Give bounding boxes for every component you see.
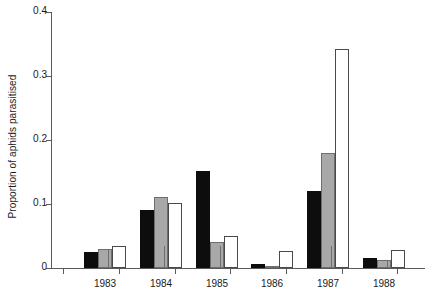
x-tick-mark-1985 <box>175 269 176 274</box>
x-tick-mark-1983 <box>63 269 64 274</box>
bar-1988-gray <box>377 260 391 268</box>
y-axis-label: Proportion of aphids parasitised <box>6 0 20 293</box>
bar-1986-white <box>279 251 293 268</box>
x-tick-mark-1988 <box>342 269 343 274</box>
x-tick-mark-1986 <box>230 269 231 274</box>
bar-1985-black <box>196 171 210 268</box>
x-tick-label-1983: 1983 <box>77 278 133 289</box>
y-tick-label: 0 <box>41 261 47 272</box>
y-tick-4: 0.4 <box>51 12 52 13</box>
x-tick-label-1985: 1985 <box>189 278 245 289</box>
bar-1987-white <box>335 49 349 268</box>
bar-texture-line <box>164 246 165 268</box>
bar-1986-black <box>251 264 265 268</box>
y-tick-0: 0 <box>51 268 52 269</box>
bar-1984-black <box>140 210 154 268</box>
bar-texture-line <box>220 246 221 268</box>
y-tick-3: 0.3 <box>51 76 52 77</box>
bar-texture-line <box>275 267 276 268</box>
bar-1984-gray <box>154 197 168 268</box>
bar-1985-gray <box>210 242 224 268</box>
bar-texture-line <box>387 260 388 268</box>
x-tick-label-1984: 1984 <box>133 278 189 289</box>
x-tick-label-1987: 1987 <box>300 278 356 289</box>
bar-1987-black <box>307 191 321 268</box>
x-tick-mark-1987 <box>286 269 287 274</box>
x-tick-mark-1984 <box>119 269 120 274</box>
bar-1986-gray <box>265 266 279 268</box>
y-tick-2: 0.2 <box>51 140 52 141</box>
y-tick-label: 0.2 <box>33 133 47 144</box>
y-tick-label: 0.3 <box>33 69 47 80</box>
x-tick-label-1988: 1988 <box>356 278 412 289</box>
x-tick-mark-end <box>397 269 398 274</box>
y-tick-label: 0.4 <box>33 5 47 16</box>
bar-1983-gray <box>98 249 112 268</box>
bar-1988-white <box>391 250 405 268</box>
y-tick-label: 0.1 <box>33 197 47 208</box>
y-tick-1: 0.1 <box>51 204 52 205</box>
chart-figure: Proportion of aphids parasitised 00.10.2… <box>0 0 433 293</box>
bar-1983-white <box>112 246 126 268</box>
bar-1987-gray <box>321 153 335 268</box>
bar-1984-white <box>168 203 182 268</box>
bar-1983-black <box>84 252 98 268</box>
bar-1988-black <box>363 258 377 268</box>
bar-texture-line <box>331 246 332 268</box>
plot-area: 00.10.20.30.4 198319841985198619871988 <box>51 12 425 269</box>
bar-1985-white <box>224 236 238 268</box>
x-axis-line <box>51 268 425 269</box>
bar-texture-line <box>108 249 109 268</box>
x-tick-label-1986: 1986 <box>244 278 300 289</box>
